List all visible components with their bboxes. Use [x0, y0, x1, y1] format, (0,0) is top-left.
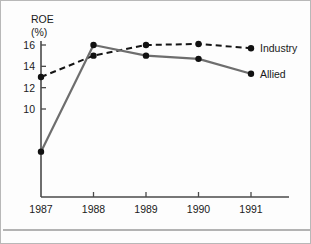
x-tick-label: 1988 — [82, 203, 106, 215]
x-axis-ticks: 19871988198919901991 — [29, 192, 263, 215]
legend-label-industry: Industry — [260, 42, 298, 54]
data-point-allied — [90, 42, 96, 48]
roe-line-chart: ROE (%) 10121416 19871988198919901991 In… — [1, 1, 311, 244]
series-markers-industry — [38, 41, 254, 80]
series-line-industry — [41, 44, 251, 77]
data-point-industry — [38, 74, 44, 80]
series-line-allied — [41, 45, 251, 152]
y-tick-label: 16 — [23, 39, 35, 51]
x-tick-label: 1990 — [187, 203, 211, 215]
x-tick-label: 1991 — [239, 203, 263, 215]
x-tick-label: 1987 — [29, 203, 53, 215]
y-axis-title: ROE (%) — [31, 13, 54, 38]
data-point-allied — [143, 52, 149, 58]
data-point-allied — [248, 71, 254, 77]
y-tick-label: 10 — [23, 103, 35, 115]
legend-label-allied: Allied — [260, 68, 286, 80]
data-point-industry — [90, 52, 96, 58]
data-point-industry — [248, 45, 254, 51]
y-axis-title-line2: (%) — [31, 26, 47, 38]
y-axis-title-line1: ROE — [31, 13, 54, 25]
y-tick-label: 12 — [23, 82, 35, 94]
data-point-allied — [195, 56, 201, 62]
series-markers-allied — [38, 42, 254, 155]
data-point-allied — [38, 148, 44, 154]
x-tick-label: 1989 — [134, 203, 158, 215]
y-tick-label: 14 — [23, 60, 35, 72]
chart-figure: ROE (%) 10121416 19871988198919901991 In… — [0, 0, 311, 244]
data-point-industry — [143, 42, 149, 48]
data-point-industry — [195, 41, 201, 47]
